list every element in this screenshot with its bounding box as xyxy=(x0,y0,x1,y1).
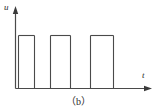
figure-caption: （b） xyxy=(0,93,157,108)
pulse-2 xyxy=(51,36,71,89)
y-axis xyxy=(13,6,18,89)
x-axis xyxy=(16,86,153,91)
waveform-plot xyxy=(0,0,157,108)
x-axis-arrowhead xyxy=(144,86,152,91)
waveform-figure: u t （b） xyxy=(0,0,157,108)
pulse-1 xyxy=(19,36,35,89)
pulse-3 xyxy=(91,36,114,89)
x-axis-label: t xyxy=(142,71,145,80)
y-axis-arrowhead xyxy=(13,6,18,14)
y-axis-label: u xyxy=(4,3,9,12)
